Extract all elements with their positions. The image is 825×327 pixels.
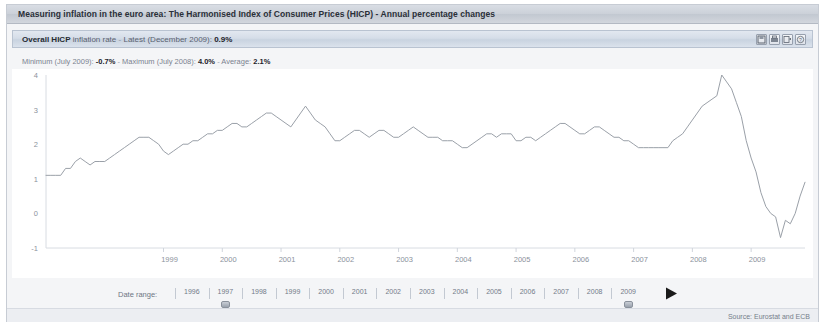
slider-tick-mark	[242, 288, 243, 299]
minimum-label: Minimum (July 2009):	[22, 57, 94, 66]
slider-tick-mark	[611, 288, 612, 299]
maximum-value: 4.0%	[198, 57, 215, 66]
slider-tick-mark	[578, 288, 579, 299]
footer-band	[7, 308, 818, 322]
slider-handle-end[interactable]	[624, 301, 633, 308]
x-axis-tick-label: 2004	[455, 255, 472, 264]
series-summary: Overall HICP inflation rate - Latest (De…	[22, 35, 232, 44]
application-window: Measuring inflation in the euro area: Th…	[0, 0, 825, 327]
widget-frame: Measuring inflation in the euro area: Th…	[6, 4, 819, 322]
slider-tick-mark	[544, 288, 545, 299]
stats-separator-1: -	[117, 57, 120, 66]
print-icon[interactable]	[769, 34, 780, 45]
slider-tick-mark	[410, 288, 411, 299]
slider-tick-mark	[276, 288, 277, 299]
series-statistics: Minimum (July 2009): -0.7% - Maximum (Ju…	[22, 57, 270, 66]
slider-year-label[interactable]: 1996	[179, 288, 205, 295]
export-icon[interactable]	[782, 34, 793, 45]
slider-year-label[interactable]: 2004	[447, 288, 473, 295]
slider-year-label[interactable]: 2000	[313, 288, 339, 295]
slider-tick-mark	[477, 288, 478, 299]
y-axis-tick-label: -1	[31, 244, 38, 253]
play-button[interactable]	[663, 286, 679, 301]
latest-value: 0.9%	[214, 35, 232, 44]
x-axis-tick-label: 2007	[631, 255, 648, 264]
stats-separator-2: -	[217, 57, 220, 66]
chart-panel[interactable]: 43210-1199920002001200220032004200520062…	[12, 69, 813, 278]
x-axis-tick-label: 2009	[749, 255, 766, 264]
slider-year-label[interactable]: 1999	[280, 288, 306, 295]
line-chart[interactable]: 43210-1199920002001200220032004200520062…	[12, 69, 813, 278]
slider-year-label[interactable]: 2005	[481, 288, 507, 295]
x-axis-tick-label: 2006	[573, 255, 590, 264]
y-axis-tick-label: 1	[34, 175, 38, 184]
page-title: Measuring inflation in the euro area: Th…	[18, 9, 495, 19]
slider-tick-mark	[209, 288, 210, 299]
slider-tick-mark	[175, 288, 176, 299]
svg-text:?: ?	[799, 37, 802, 43]
y-axis-tick-label: 3	[34, 106, 38, 115]
series-qualifier: inflation rate	[73, 35, 117, 44]
date-range-label: Date range:	[118, 290, 157, 299]
maximum-label: Maximum (July 2008):	[122, 57, 196, 66]
slider-tick-mark	[309, 288, 310, 299]
x-axis-tick-label: 2008	[690, 255, 707, 264]
slider-year-label[interactable]: 1998	[246, 288, 272, 295]
latest-label: Latest (December 2009):	[123, 35, 212, 44]
series-separator: -	[119, 35, 122, 44]
title-bar: Measuring inflation in the euro area: Th…	[7, 5, 818, 24]
slider-year-label[interactable]: 2008	[582, 288, 608, 295]
series-header-bar: Overall HICP inflation rate - Latest (De…	[12, 30, 813, 48]
slider-tick-mark	[343, 288, 344, 299]
slider-year-label[interactable]: 2003	[414, 288, 440, 295]
slider-year-label[interactable]: 2009	[615, 288, 641, 295]
x-axis-tick-label: 2001	[279, 255, 296, 264]
average-value: 2.1%	[253, 57, 270, 66]
slider-tick-mark	[444, 288, 445, 299]
slider-tick-mark	[511, 288, 512, 299]
x-axis-tick-label: 1999	[161, 255, 178, 264]
help-icon[interactable]: ?	[795, 34, 806, 45]
slider-year-label[interactable]: 2007	[548, 288, 574, 295]
slider-year-label[interactable]: 2002	[380, 288, 406, 295]
slider-year-label[interactable]: 1997	[212, 288, 238, 295]
toolbar-icon-group: ?	[756, 34, 806, 45]
source-note: Source: Eurostat and ECB	[728, 313, 810, 320]
series-name: Overall HICP	[22, 35, 70, 44]
save-icon[interactable]	[756, 34, 767, 45]
y-axis-tick-label: 0	[34, 209, 38, 218]
data-series-line	[46, 75, 805, 238]
average-label: Average:	[221, 57, 251, 66]
slider-handle-start[interactable]	[221, 301, 230, 308]
y-axis-tick-label: 4	[34, 71, 38, 80]
date-range-slider-track[interactable]: 1996199719981999200020012002200320042005…	[175, 287, 645, 300]
x-axis-tick-label: 2003	[396, 255, 413, 264]
slider-year-label[interactable]: 2001	[347, 288, 373, 295]
x-axis-tick-label: 2005	[514, 255, 531, 264]
y-axis-tick-label: 2	[34, 140, 38, 149]
x-axis-tick-label: 2000	[220, 255, 237, 264]
x-axis-tick-label: 2002	[337, 255, 354, 264]
slider-tick-mark	[376, 288, 377, 299]
slider-year-label[interactable]: 2006	[515, 288, 541, 295]
minimum-value: -0.7%	[96, 57, 116, 66]
